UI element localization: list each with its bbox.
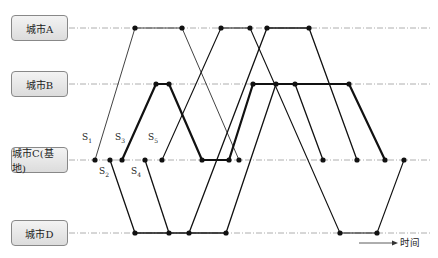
vehicle-schedule-diagram: 城市A 城市B 城市C(基地) 城市D (0, 0, 438, 258)
label-s5: S5 (148, 132, 158, 144)
city-baselines (69, 28, 432, 233)
label-s1: S1 (82, 132, 92, 144)
label-s2: S2 (99, 166, 109, 178)
label-s4: S4 (131, 166, 141, 178)
schedule-lines (0, 0, 438, 258)
time-arrow-icon (359, 241, 398, 246)
label-s3: S3 (115, 132, 125, 144)
time-axis-label: 时间 (400, 235, 420, 249)
stop-dots (92, 25, 406, 235)
